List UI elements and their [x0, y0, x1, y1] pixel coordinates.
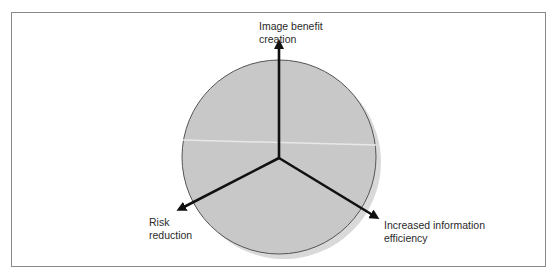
label-image-benefit-creation: Image benefit creation	[259, 20, 323, 45]
label-risk-reduction: Risk reduction	[149, 216, 192, 241]
label-increased-information-efficiency: Increased information efficiency	[384, 219, 485, 244]
